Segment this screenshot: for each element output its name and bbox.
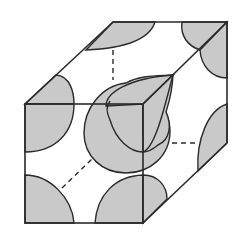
bcc-svg xyxy=(0,0,245,247)
hidden-edge-diagonal xyxy=(62,158,93,188)
corner-atom-front-bottom-right-front xyxy=(95,175,143,223)
corner-atom-back-top-left xyxy=(86,22,155,50)
corner-atom-front-top-left-front xyxy=(25,104,74,152)
corner-atom-front-bottom-right-side xyxy=(143,175,167,223)
corner-atom-front-bottom-left xyxy=(25,175,74,223)
bcc-unit-cell-diagram: Body-centered cubic unit cell xyxy=(0,0,245,247)
corner-atom-front-top-left-top xyxy=(25,75,74,104)
corner-atom-back-bottom-right xyxy=(198,104,227,171)
